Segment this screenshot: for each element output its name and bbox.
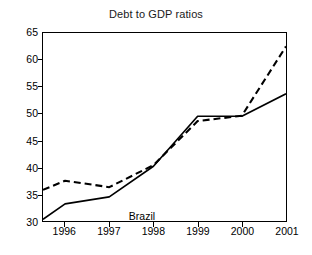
y-axis-tick-label: 65 — [12, 27, 38, 37]
y-axis-tick-mark — [38, 195, 43, 196]
y-axis-tick-label: 55 — [12, 81, 38, 91]
series-line-other — [43, 46, 286, 189]
y-axis-tick-mark — [38, 59, 43, 60]
x-axis-tick-label: 1997 — [97, 226, 120, 237]
x-axis-tick-label: 2000 — [231, 226, 254, 237]
y-axis-tick-label: 30 — [12, 217, 38, 227]
x-axis-tick-mark — [109, 222, 110, 227]
y-axis-tick-mark — [38, 168, 43, 169]
x-axis-tick-label: 2001 — [275, 226, 298, 237]
y-axis-tick-mark — [38, 141, 43, 142]
y-axis-label-group: 3035404550556065 — [8, 32, 38, 222]
x-axis-tick-mark — [198, 222, 199, 227]
y-axis-tick-mark — [38, 113, 43, 114]
chart-container: Debt to GDP ratios 3035404550556065 1996… — [0, 0, 312, 255]
x-axis-tick-label: 1996 — [53, 226, 76, 237]
x-axis-tick-mark — [153, 222, 154, 227]
x-axis-tick-mark — [64, 222, 65, 227]
y-axis-tick-label: 45 — [12, 136, 38, 146]
x-axis-tick-label: 1999 — [186, 226, 209, 237]
y-axis-tick-label: 60 — [12, 54, 38, 64]
chart-title: Debt to GDP ratios — [0, 8, 312, 20]
y-axis-tick-label: 50 — [12, 108, 38, 118]
plot-area — [42, 32, 287, 222]
y-axis-tick-label: 35 — [12, 190, 38, 200]
x-axis-label-group: 199619971998199920002001 — [42, 226, 287, 244]
series-line-brazil — [43, 94, 286, 220]
y-axis-tick-mark — [38, 86, 43, 87]
x-axis-tick-label: 1998 — [142, 226, 165, 237]
brazil-annotation: Brazil — [129, 210, 155, 222]
series-lines — [43, 33, 286, 221]
y-axis-tick-label: 40 — [12, 163, 38, 173]
x-axis-tick-mark — [242, 222, 243, 227]
